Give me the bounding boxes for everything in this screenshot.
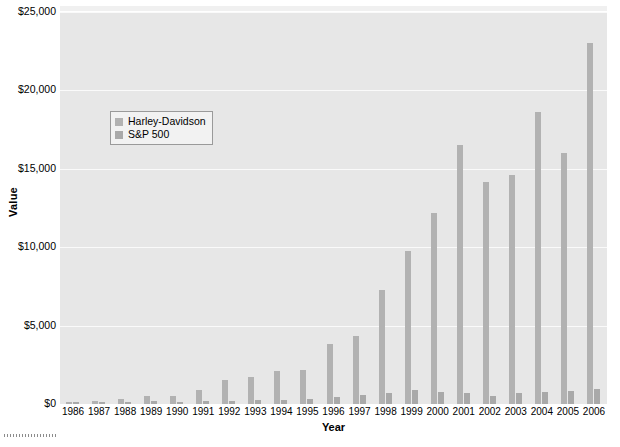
- legend: Harley-Davidson S&P 500: [110, 111, 213, 145]
- x-axis-tick-label: 2004: [529, 406, 555, 417]
- x-axis-tick-label: 1988: [112, 406, 138, 417]
- bar: [144, 396, 150, 404]
- bar: [379, 290, 385, 404]
- bar-group: [587, 12, 601, 404]
- bar: [438, 392, 444, 404]
- bar: [360, 395, 366, 404]
- bar: [248, 377, 254, 404]
- legend-swatch-icon: [115, 131, 123, 139]
- bar: [229, 401, 235, 404]
- bar: [196, 390, 202, 404]
- bar-group: [92, 12, 106, 404]
- x-axis-tick-label: 2005: [555, 406, 581, 417]
- x-axis-tick-label: 2001: [451, 406, 477, 417]
- y-axis-tick-labels: $0$5,000$10,000$15,000$20,000$25,000: [0, 0, 56, 447]
- bar: [203, 401, 209, 404]
- x-axis-tick-label: 2006: [581, 406, 607, 417]
- x-axis-tick-label: 1997: [347, 406, 373, 417]
- legend-label: Harley-Davidson: [128, 115, 206, 128]
- x-axis-tick-label: 1992: [216, 406, 242, 417]
- bar-group: [405, 12, 419, 404]
- bar-group: [327, 12, 341, 404]
- bar: [118, 399, 124, 404]
- x-axis-tick-label: 2000: [425, 406, 451, 417]
- y-axis-tick-label: $25,000: [4, 5, 56, 17]
- legend-item-sp-500: S&P 500: [115, 128, 206, 141]
- x-axis-title: Year: [60, 421, 607, 433]
- dotted-artifact: [4, 434, 58, 437]
- bar: [386, 393, 392, 404]
- bar-group: [561, 12, 575, 404]
- bar: [561, 153, 567, 404]
- x-axis-tick-label: 1993: [242, 406, 268, 417]
- bar-group: [118, 12, 132, 404]
- legend-label: S&P 500: [128, 128, 169, 141]
- y-axis-tick-label: $20,000: [4, 83, 56, 95]
- y-axis-tick-label: $15,000: [4, 162, 56, 174]
- bar: [66, 402, 72, 404]
- x-axis-tick-labels: 1986198719881989199019911992199319941995…: [60, 406, 607, 422]
- bar-group: [483, 12, 497, 404]
- bar: [92, 401, 98, 404]
- x-axis-tick-label: 1989: [138, 406, 164, 417]
- plot-area: [60, 12, 607, 404]
- x-axis-tick-label: 1998: [373, 406, 399, 417]
- bar: [542, 392, 548, 404]
- bar-group: [431, 12, 445, 404]
- x-axis-tick-label: 1994: [268, 406, 294, 417]
- y-axis-tick-label: $5,000: [4, 319, 56, 331]
- bars-layer: [60, 12, 607, 404]
- legend-swatch-icon: [115, 118, 123, 126]
- x-axis-tick-label: 1986: [60, 406, 86, 417]
- bar: [222, 380, 228, 404]
- bar-group: [457, 12, 471, 404]
- bar: [353, 336, 359, 404]
- x-axis-tick-label: 2003: [503, 406, 529, 417]
- bar: [457, 145, 463, 404]
- bar: [151, 401, 157, 404]
- x-axis-tick-label: 2002: [477, 406, 503, 417]
- bar: [594, 389, 600, 404]
- bar-group: [509, 12, 523, 404]
- x-axis-tick-label: 1999: [399, 406, 425, 417]
- bar: [464, 393, 470, 404]
- bar-group: [144, 12, 158, 404]
- bar: [300, 370, 306, 404]
- bar: [307, 399, 313, 404]
- bar-group: [66, 12, 80, 404]
- bar: [125, 402, 131, 404]
- bar-group: [274, 12, 288, 404]
- bar: [177, 402, 183, 404]
- y-axis-tick-label: $0: [4, 397, 56, 409]
- x-axis-tick-label: 1996: [320, 406, 346, 417]
- x-axis-tick-label: 1995: [294, 406, 320, 417]
- bar-group: [300, 12, 314, 404]
- bar-group: [222, 12, 236, 404]
- bar-group: [170, 12, 184, 404]
- bar: [281, 400, 287, 404]
- bar: [509, 175, 515, 404]
- bar: [587, 43, 593, 404]
- bar: [516, 393, 522, 404]
- bar: [334, 397, 340, 404]
- bar: [412, 390, 418, 404]
- bar: [431, 213, 437, 404]
- bar-group: [535, 12, 549, 404]
- plot-top-strip: [60, 6, 607, 11]
- x-axis-tick-label: 1990: [164, 406, 190, 417]
- y-axis-tick-label: $10,000: [4, 240, 56, 252]
- x-axis-tick-label: 1991: [190, 406, 216, 417]
- bar: [170, 396, 176, 404]
- bar: [99, 402, 105, 404]
- bar: [490, 396, 496, 404]
- x-axis-tick-label: 1987: [86, 406, 112, 417]
- bar-group: [353, 12, 367, 404]
- bar: [255, 400, 261, 404]
- bar: [327, 344, 333, 404]
- bar: [535, 112, 541, 404]
- bar: [568, 391, 574, 404]
- legend-item-harley-davidson: Harley-Davidson: [115, 115, 206, 128]
- bar: [483, 182, 489, 404]
- bar-group: [196, 12, 210, 404]
- bar-group: [248, 12, 262, 404]
